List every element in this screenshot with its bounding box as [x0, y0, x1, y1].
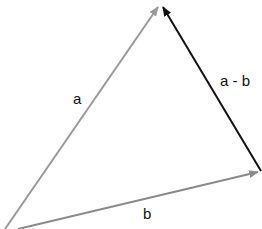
vector-b-arrow [18, 172, 258, 229]
label-a-minus-b: a - b [220, 72, 250, 89]
label-a: a [73, 90, 81, 107]
label-b: b [143, 205, 151, 222]
vector-diagram [0, 0, 262, 229]
vector-a-minus-b-arrow [163, 7, 261, 171]
vector-a-arrow [5, 7, 158, 229]
